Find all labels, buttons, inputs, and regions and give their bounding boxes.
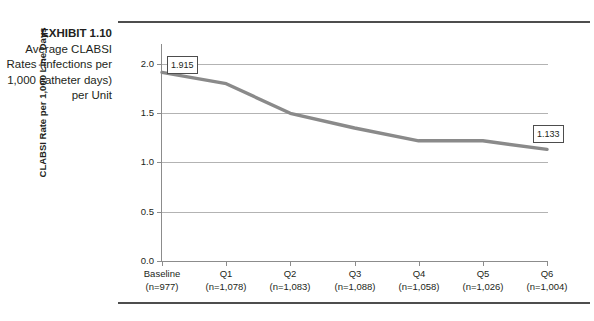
data-line-clabsi-rate [162, 72, 547, 149]
exhibit-figure: EXHIBIT 1.10 Average CLABSI Rates (infec… [0, 0, 594, 321]
chart-plot-area: CLABSI Rate per 1,000 Line Days 0.0 0.5 … [0, 0, 594, 321]
data-label-q6: 1.133 [533, 125, 564, 143]
series-layer [0, 0, 594, 321]
data-label-baseline: 1.915 [167, 56, 198, 74]
